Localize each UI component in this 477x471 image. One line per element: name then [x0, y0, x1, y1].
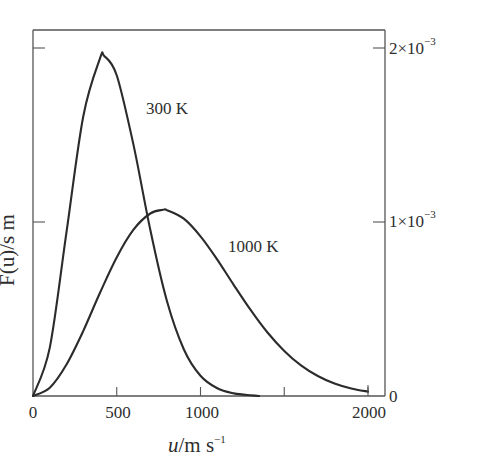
y-tick-1-exponent: −3: [424, 208, 436, 220]
x-tick-label-1000: 1000: [185, 403, 219, 422]
maxwell-distribution-chart: 300 K 1000 K 0 500 1000 2000 0 1×10−3 2×…: [0, 0, 477, 471]
x-tick-label-0: 0: [29, 403, 38, 422]
x-title-unit: /m s: [179, 433, 215, 457]
curve-1000k: [33, 209, 368, 396]
x-tick-label-500: 500: [105, 403, 131, 422]
x-axis-title: u/m s−1: [168, 433, 226, 457]
y-tick-label-0: 0: [389, 387, 398, 406]
y-axis-title: F(u)/s m: [0, 214, 19, 286]
plot-frame: [33, 30, 385, 396]
label-300k: 300 K: [146, 99, 189, 118]
y-tick-label-2e-3: 2×10−3: [389, 35, 436, 58]
label-1000k: 1000 K: [228, 237, 279, 256]
x-tick-label-2000: 2000: [352, 403, 386, 422]
y-tick-2-mantissa: 2×10: [389, 39, 424, 58]
x-title-variable: u: [168, 433, 179, 457]
y-tick-label-1e-3: 1×10−3: [389, 208, 436, 231]
y-tick-2-exponent: −3: [424, 35, 436, 47]
y-tick-1-mantissa: 1×10: [389, 212, 424, 231]
x-title-exponent: −1: [214, 433, 226, 445]
